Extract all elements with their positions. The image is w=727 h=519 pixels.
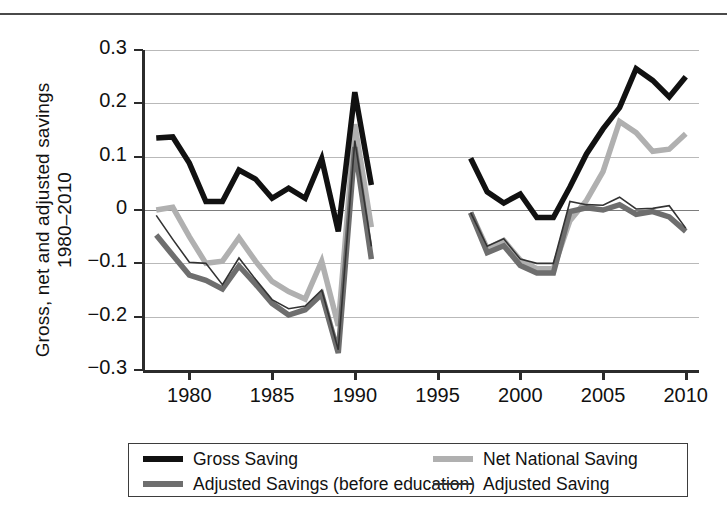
legend-item[interactable]: Adjusted Saving (419, 472, 609, 496)
y-tick-mark (134, 209, 143, 211)
plot-area: 0.30.20.10−0.1−0.2−0.3 19801985199019952… (143, 50, 699, 370)
x-tick-mark (354, 370, 357, 380)
y-tick-label: −0.3 (61, 356, 127, 379)
y-tick-label: 0.1 (61, 143, 127, 166)
y-tick-label: 0.3 (61, 36, 127, 59)
legend-swatch-line-icon (143, 481, 183, 487)
y-tick-mark (134, 156, 143, 158)
y-tick-label: −0.2 (61, 303, 127, 326)
chart-legend: Gross SavingNet National SavingAdjusted … (128, 443, 688, 497)
series-line (471, 69, 686, 218)
legend-item[interactable]: Gross Saving (129, 447, 298, 471)
series-line (156, 147, 371, 353)
x-tick-label: 1980 (149, 384, 229, 407)
legend-row: Gross SavingNet National Saving (129, 447, 689, 471)
y-tick-mark (134, 369, 143, 371)
legend-swatch-line-icon (433, 483, 473, 485)
y-tick-label: 0.2 (61, 89, 127, 112)
y-tick-mark (134, 102, 143, 104)
top-horizontal-rule (0, 13, 727, 15)
legend-swatch-line-icon (143, 456, 183, 462)
chart-figure: Gross, net and adjusted savings 1980–201… (0, 0, 727, 519)
x-tick-label: 2000 (480, 384, 560, 407)
x-tick-label: 1995 (398, 384, 478, 407)
x-tick-label: 2005 (563, 384, 643, 407)
y-tick-label: 0 (61, 196, 127, 219)
x-tick-mark (519, 370, 522, 380)
legend-label: Net National Saving (483, 449, 638, 470)
y-tick-label: −0.1 (61, 249, 127, 272)
x-axis-spine (143, 370, 699, 373)
legend-row: Adjusted Savings (before education)Adjus… (129, 472, 689, 496)
legend-label: Gross Saving (193, 449, 298, 470)
legend-label: Adjusted Saving (483, 474, 609, 495)
x-tick-mark (437, 370, 440, 380)
legend-swatch-line-icon (433, 456, 473, 462)
legend-item[interactable]: Net National Saving (419, 447, 638, 471)
x-tick-mark (685, 370, 688, 380)
y-tick-mark (134, 262, 143, 264)
y-tick-mark (134, 316, 143, 318)
x-tick-label: 1985 (232, 384, 312, 407)
x-tick-mark (602, 370, 605, 380)
x-tick-label: 2010 (646, 384, 726, 407)
y-tick-mark (134, 49, 143, 51)
x-tick-label: 1990 (315, 384, 395, 407)
x-tick-mark (188, 370, 191, 380)
series-line (156, 92, 371, 231)
x-tick-mark (271, 370, 274, 380)
series-lines (143, 50, 699, 370)
